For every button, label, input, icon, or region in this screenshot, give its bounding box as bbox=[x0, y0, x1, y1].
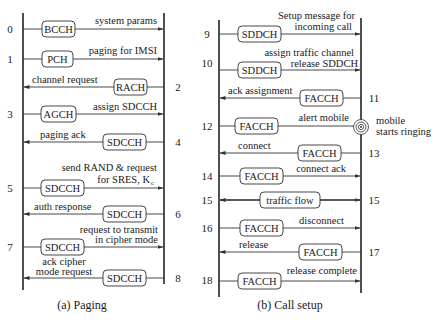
channel-label: FACCH bbox=[244, 171, 279, 182]
message-label: assign traffic channel bbox=[264, 47, 354, 58]
step-number: 6 bbox=[175, 208, 181, 220]
channel-label: SDCCH bbox=[107, 209, 142, 220]
step-number: 3 bbox=[7, 108, 13, 120]
message-label: channel request bbox=[32, 74, 98, 85]
channel-label: FACCH bbox=[302, 148, 337, 159]
step-number-right: 15 bbox=[369, 194, 381, 206]
message-label: disconnect bbox=[299, 215, 344, 226]
channel-label: FACCH bbox=[239, 121, 274, 132]
step-number: 2 bbox=[175, 81, 181, 93]
channel-label: FACCH bbox=[304, 93, 339, 104]
ringing-note-line2: starts ringing bbox=[376, 126, 432, 137]
step-number: 10 bbox=[202, 57, 214, 69]
message-label: paging ack bbox=[40, 129, 87, 140]
channel-label: SDCCH bbox=[45, 242, 80, 253]
message-label-line2: in cipher mode bbox=[95, 234, 158, 245]
step-number: 7 bbox=[7, 241, 13, 253]
channel-label: FACCH bbox=[244, 223, 279, 234]
message-row: 10 SDDCH assign traffic channel release … bbox=[202, 47, 361, 78]
step-number: 11 bbox=[369, 92, 380, 104]
step-number: 13 bbox=[369, 147, 381, 159]
message-row: 5 SDCCH send RAND & request for SRES, K … bbox=[7, 162, 163, 196]
subscript-c: c bbox=[151, 179, 154, 187]
message-row: 11 FACCH ack assignment bbox=[220, 85, 379, 106]
step-number: 1 bbox=[7, 53, 13, 65]
message-row: 7 SDCCH request to transmit in cipher mo… bbox=[7, 224, 163, 255]
step-number: 18 bbox=[202, 274, 214, 286]
step-number: 4 bbox=[175, 136, 181, 148]
message-label: release bbox=[239, 239, 268, 250]
message-row: 16 FACCH disconnect bbox=[202, 215, 361, 236]
channel-label: BCCH bbox=[44, 24, 73, 35]
message-label: alert mobile bbox=[299, 112, 350, 123]
message-row: 6 SDCCH auth response bbox=[24, 201, 181, 222]
panel-call-setup: 9 SDDCH Setup message for incoming call … bbox=[202, 10, 432, 312]
message-label-line2: for SRES, K bbox=[97, 174, 150, 185]
step-number: 0 bbox=[7, 23, 13, 35]
panel-paging: 0 BCCH system params 1 PCH paging for IM… bbox=[7, 13, 181, 312]
message-row: 1 PCH paging for IMSI bbox=[7, 45, 163, 67]
step-number: 16 bbox=[202, 222, 214, 234]
message-label-line2: incoming call bbox=[295, 21, 353, 32]
message-row: 0 BCCH system params bbox=[7, 15, 163, 37]
traffic-flow-label: traffic flow bbox=[266, 195, 314, 206]
step-number: 8 bbox=[175, 272, 181, 284]
message-label: system params bbox=[95, 15, 157, 26]
caption-call-setup: (b) Call setup bbox=[257, 298, 322, 312]
channel-label: SDCCH bbox=[45, 183, 80, 194]
channel-label: SDDCH bbox=[242, 65, 278, 76]
ringing-note-line1: mobile bbox=[376, 115, 406, 126]
message-label: ack assignment bbox=[228, 85, 293, 96]
message-row: 4 SDCCH paging ack bbox=[24, 129, 181, 150]
channel-label: SDCCH bbox=[107, 273, 142, 284]
channel-label: RACH bbox=[116, 82, 146, 93]
step-number: 14 bbox=[202, 170, 214, 182]
channel-label: SDDCH bbox=[242, 29, 278, 40]
message-label: paging for IMSI bbox=[89, 45, 158, 56]
message-label: connect bbox=[238, 140, 271, 151]
message-row: 13 FACCH connect bbox=[220, 140, 380, 161]
message-row: 9 SDDCH Setup message for incoming call bbox=[204, 10, 360, 42]
message-row: 15 15 traffic flow bbox=[202, 192, 381, 208]
gsm-signaling-diagram: 0 BCCH system params 1 PCH paging for IM… bbox=[0, 0, 446, 327]
message-label-line2: mode request bbox=[36, 266, 92, 277]
message-label: assign SDCCH bbox=[93, 101, 157, 112]
message-label: connect ack bbox=[296, 163, 347, 174]
message-row: 2 RACH channel request bbox=[24, 74, 181, 95]
message-label-line2: release SDDCH bbox=[291, 58, 359, 69]
step-number: 9 bbox=[204, 28, 210, 40]
step-number: 15 bbox=[202, 194, 214, 206]
step-number: 5 bbox=[7, 182, 13, 194]
step-number: 12 bbox=[202, 120, 213, 132]
channel-label: AGCH bbox=[44, 109, 74, 120]
caption-paging: (a) Paging bbox=[57, 298, 107, 312]
message-label: auth response bbox=[34, 201, 92, 212]
message-row: 18 FACCH release complete bbox=[202, 265, 361, 289]
message-row: 17 FACCH release bbox=[220, 239, 380, 260]
message-row: 8 SDCCH ack cipher mode request bbox=[24, 256, 181, 286]
message-row: 12 FACCH alert mobile mobile starts ring… bbox=[202, 112, 432, 137]
message-row: 14 FACCH connect ack bbox=[202, 163, 361, 184]
channel-label: FACCH bbox=[242, 276, 277, 287]
message-label: release complete bbox=[287, 265, 358, 276]
channel-label: FACCH bbox=[303, 247, 338, 258]
message-row: 3 AGCH assign SDCCH bbox=[7, 101, 163, 122]
channel-label: PCH bbox=[47, 54, 68, 65]
message-label: send RAND & request bbox=[62, 162, 157, 173]
step-number: 17 bbox=[369, 246, 381, 258]
ringing-icon bbox=[354, 120, 369, 135]
message-label: Setup message for bbox=[278, 10, 355, 21]
channel-label: SDCCH bbox=[107, 137, 142, 148]
